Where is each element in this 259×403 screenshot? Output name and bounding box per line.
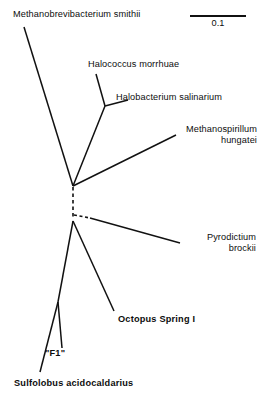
phylogenetic-tree-figure: 0.1 Methanobrevibacterium smithii Haloco… xyxy=(0,0,259,403)
taxon-label-octopus-spring-i: Octopus Spring I xyxy=(118,314,195,325)
branch-sulfolobus-f1-stem xyxy=(58,221,73,302)
taxon-label-pyrodictium-brockii-line1: Pyrodictium xyxy=(207,232,256,242)
branch-halobacteriales-stem xyxy=(73,106,105,186)
branch-f1 xyxy=(58,302,62,348)
branch-pyrodictium-brockii xyxy=(90,218,180,243)
taxon-label-methanospirillum-hungatei: Methanospirillum hungatei xyxy=(164,124,257,146)
taxon-label-methanospirillum-hungatei-line1: Methanospirillum xyxy=(186,124,257,134)
taxon-label-methanobrevibacterium-smithii: Methanobrevibacterium smithii xyxy=(13,9,141,20)
taxon-label-pyrodictium-brockii: Pyrodictium brockii xyxy=(176,232,256,254)
branch-halococcus-morrhuae xyxy=(96,74,105,106)
taxon-label-halococcus-morrhuae: Halococcus morrhuae xyxy=(88,59,179,70)
branch-sulfolobus-acidocaldarius xyxy=(40,302,58,372)
taxon-label-methanospirillum-hungatei-line2: hungatei xyxy=(221,135,257,145)
branch-octopus-spring-i xyxy=(73,221,114,311)
taxon-label-halobacterium-salinarium: Halobacterium salinarium xyxy=(116,92,222,103)
branch-methanobrevibacterium-smithii xyxy=(24,27,73,186)
branch-pyrodictium-brockii-dashed xyxy=(74,215,90,218)
taxon-label-pyrodictium-brockii-line2: brockii xyxy=(229,243,256,253)
taxon-label-f1: "F1" xyxy=(45,348,65,359)
branch-methanospirillum-hungatei xyxy=(73,135,176,186)
taxon-label-sulfolobus-acidocaldarius: Sulfolobus acidocaldarius xyxy=(14,378,133,389)
scale-bar-label: 0.1 xyxy=(190,18,246,28)
